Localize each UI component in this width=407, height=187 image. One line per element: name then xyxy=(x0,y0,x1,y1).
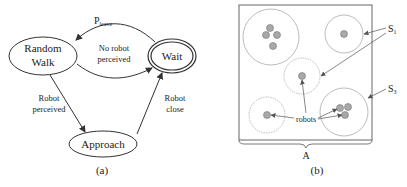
transition-robot-close-arrow xyxy=(137,73,162,134)
robot xyxy=(342,112,349,119)
state-approach: Approach xyxy=(69,131,137,157)
arena-diagram: robots S1 S3 A (b) xyxy=(239,5,397,177)
caption-a: (a) xyxy=(96,164,109,177)
area-brace xyxy=(239,140,372,148)
robots-pointer xyxy=(318,115,342,119)
cluster-middle xyxy=(284,58,320,94)
s1-pointer xyxy=(364,28,386,34)
robot xyxy=(337,105,344,112)
caption-b: (b) xyxy=(311,164,324,177)
robot xyxy=(299,73,306,80)
transition-robot-close-line2: close xyxy=(166,104,184,114)
robot xyxy=(341,31,348,38)
cluster-top-right xyxy=(325,15,363,53)
state-wait-label: Wait xyxy=(162,50,183,62)
state-diagram: Random Walk Wait Approach Pleave No robo… xyxy=(9,15,196,177)
cluster-bottom-left xyxy=(249,97,285,133)
figure: Random Walk Wait Approach Pleave No robo… xyxy=(0,0,407,187)
transition-no-robot-line1: No robot xyxy=(99,43,130,53)
robots-label: robots xyxy=(296,115,316,124)
cluster-bottom-right xyxy=(320,88,368,136)
robots-pointer xyxy=(271,115,294,118)
s3-pointer xyxy=(368,89,386,98)
state-approach-label: Approach xyxy=(81,138,125,150)
state-random-walk-line2: Walk xyxy=(32,56,55,68)
robot xyxy=(274,32,281,39)
robots-pointer xyxy=(302,80,306,113)
robot xyxy=(267,25,274,32)
s3-label: S3 xyxy=(388,83,397,95)
robot xyxy=(264,112,271,119)
robot xyxy=(270,43,277,50)
cluster-top-left xyxy=(243,9,299,65)
transition-robot-perceived-line2: perceived xyxy=(32,104,66,114)
transition-no-robot-arrow xyxy=(77,64,152,78)
state-wait: Wait xyxy=(148,39,196,73)
transition-p-leave-label: Pleave xyxy=(94,15,113,27)
transition-robot-perceived-line1: Robot xyxy=(39,93,60,103)
robot xyxy=(263,32,270,39)
area-label: A xyxy=(302,150,310,161)
transition-robot-close-line1: Robot xyxy=(165,93,186,103)
s1-label: S1 xyxy=(388,23,397,35)
s1-pointer xyxy=(321,33,386,76)
transition-p-leave-arrow xyxy=(76,24,155,42)
state-random-walk: Random Walk xyxy=(9,37,77,75)
transition-no-robot-line2: perceived xyxy=(97,54,131,64)
state-random-walk-line1: Random xyxy=(24,42,62,54)
robot xyxy=(345,104,352,111)
